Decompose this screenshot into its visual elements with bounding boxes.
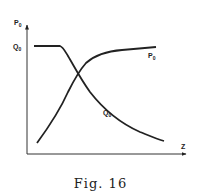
q0-curve — [34, 46, 164, 141]
p0-curve-label: P0 — [148, 52, 156, 61]
y-axis-label: P0 — [14, 19, 22, 28]
figure: P0 Q0 P0 Q0 Z Fig. 16 — [0, 0, 201, 194]
chart-plot: P0 Q0 P0 Q0 Z — [0, 0, 201, 194]
y-tick-label-q0: Q0 — [13, 43, 21, 52]
p0-curve — [37, 47, 156, 143]
figure-caption: Fig. 16 — [0, 176, 201, 191]
q0-curve-label: Q0 — [103, 109, 111, 118]
x-axis-label: Z — [181, 143, 186, 150]
